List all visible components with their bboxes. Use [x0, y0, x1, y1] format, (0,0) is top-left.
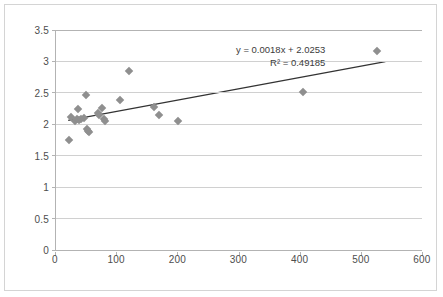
- x-axis-labels: 0100200300400500600: [55, 252, 422, 272]
- trendline-annotation: y = 0.0018x + 2.0253 R² = 0.49185: [236, 43, 325, 69]
- gridline-y: [56, 124, 422, 125]
- y-tick-mark: [52, 30, 56, 31]
- gridline-y: [56, 187, 422, 188]
- gridline-y: [56, 92, 422, 93]
- x-tick-label: 200: [169, 254, 186, 265]
- y-tick-label: 3: [3, 56, 49, 67]
- y-tick-mark: [52, 92, 56, 93]
- equation-text: y = 0.0018x + 2.0253: [236, 43, 325, 56]
- y-tick-mark: [52, 61, 56, 62]
- y-tick-label: 2: [3, 119, 49, 130]
- gridline-y: [56, 30, 422, 31]
- y-tick-mark: [52, 124, 56, 125]
- y-tick-label: 1: [3, 182, 49, 193]
- y-tick-mark: [52, 218, 56, 219]
- x-tick-label: 0: [52, 254, 58, 265]
- r-squared-text: R² = 0.49185: [236, 56, 325, 69]
- y-axis-labels: 00.511.522.533.5: [0, 30, 49, 250]
- x-tick-label: 500: [352, 254, 369, 265]
- x-tick-label: 100: [108, 254, 125, 265]
- x-tick-label: 300: [230, 254, 247, 265]
- gridline-y: [56, 250, 422, 251]
- y-tick-label: 0.5: [3, 213, 49, 224]
- x-tick-label: 600: [413, 254, 430, 265]
- y-tick-label: 0: [3, 245, 49, 256]
- y-tick-label: 2.5: [3, 87, 49, 98]
- y-tick-mark: [52, 250, 56, 251]
- chart-screenshot: 00.511.522.533.5 y = 0.0018x + 2.0253 R²…: [0, 0, 443, 297]
- scatter-chart: 00.511.522.533.5 y = 0.0018x + 2.0253 R²…: [0, 0, 443, 297]
- gridline-y: [56, 218, 422, 219]
- gridline-y: [56, 155, 422, 156]
- y-tick-mark: [52, 187, 56, 188]
- x-tick-label: 400: [291, 254, 308, 265]
- y-tick-label: 3.5: [3, 25, 49, 36]
- y-tick-mark: [52, 155, 56, 156]
- y-tick-label: 1.5: [3, 150, 49, 161]
